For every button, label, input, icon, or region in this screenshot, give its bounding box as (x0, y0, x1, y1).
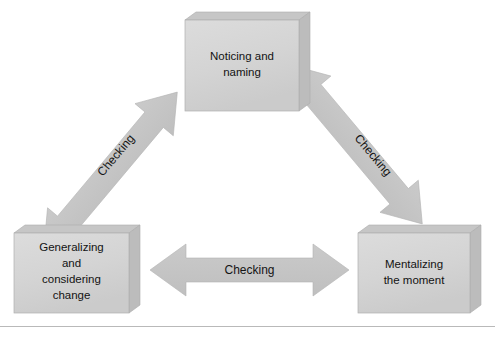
connector-bottom: Checking (150, 244, 349, 296)
node-bottom-left-box-side-face (129, 225, 140, 313)
node-bottom-left-box-label-line-4: change (53, 289, 91, 301)
node-top-box-side-face (299, 12, 310, 111)
node-noticing-and-naming: Noticing and naming (185, 12, 310, 111)
node-bottom-right-box-front-face (358, 233, 470, 313)
connector-bottom-label: Checking (224, 263, 274, 277)
node-bottom-right-box-label-line-1: Mentalizing (385, 258, 443, 270)
node-top-box-label-line-2: naming (223, 66, 261, 78)
node-bottom-left-box-label-line-2: and (62, 257, 81, 269)
node-bottom-right-box-label-line-2: the moment (384, 274, 446, 286)
node-bottom-left-box-label-line-1: Generalizing (39, 241, 104, 253)
node-top-box-top-face (185, 12, 310, 20)
node-bottom-right-box-top-face (358, 225, 481, 233)
diagram-canvas: Checking Checking Checking Noticing and … (0, 0, 495, 340)
node-bottom-left-box-top-face (14, 225, 140, 233)
node-bottom-left-box-label-line-3: considering (42, 273, 101, 285)
cycle-diagram: Checking Checking Checking Noticing and … (0, 0, 495, 340)
node-bottom-right-box-side-face (470, 225, 481, 313)
node-mentalizing-the-moment: Mentalizing the moment (358, 225, 481, 313)
node-generalizing-and-considering-change: Generalizing and considering change (14, 225, 140, 313)
node-top-box-label-line-1: Noticing and (210, 50, 274, 62)
